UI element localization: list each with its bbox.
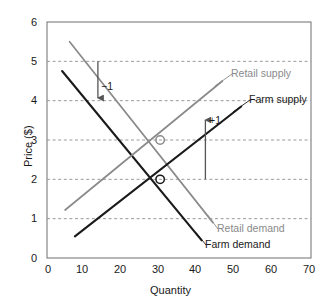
- x-tick-30: 30: [151, 263, 165, 275]
- y-tick-5: 5: [31, 55, 37, 67]
- x-tick-40: 40: [188, 263, 202, 275]
- chart-canvas: [0, 0, 334, 308]
- x-tick-10: 10: [75, 263, 89, 275]
- series-label-farm-supply: Farm supply: [249, 93, 307, 105]
- chart-figure: 6 5 4 3 2 1 0 0 10 20 30 40 50 60 70 Pri…: [0, 0, 334, 308]
- gridlines: [47, 61, 311, 218]
- x-tick-70: 70: [302, 263, 316, 275]
- y-tick-4: 4: [31, 94, 37, 106]
- series-label-retail-demand: Retail demand: [217, 222, 285, 234]
- x-axis-title: Quantity: [150, 284, 191, 296]
- y-tick-1: 1: [31, 212, 37, 224]
- y-tick-2: 2: [31, 173, 37, 185]
- y-axis-title: Price ($): [22, 125, 34, 167]
- x-tick-20: 20: [113, 263, 127, 275]
- annotation-label-minus-one: −1: [101, 80, 113, 92]
- y-tick-6: 6: [31, 16, 37, 28]
- series-label-retail-supply: Retail supply: [231, 67, 291, 79]
- y-tick-0: 0: [31, 252, 37, 264]
- leader-farm-supply: [233, 100, 250, 112]
- series-label-farm-demand: Farm demand: [205, 238, 270, 250]
- curve-retail-demand: [70, 42, 213, 223]
- leader-retail-supply: [215, 74, 232, 86]
- annotation-label-plus-one: +1: [209, 114, 221, 126]
- x-tick-60: 60: [264, 263, 278, 275]
- x-tick-50: 50: [226, 263, 240, 275]
- x-tick-0: 0: [43, 263, 53, 275]
